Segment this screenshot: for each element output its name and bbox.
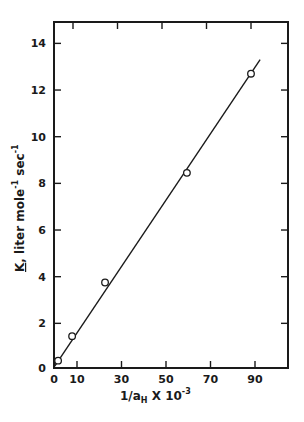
data-point-circle-icon [55, 357, 62, 364]
x-tick-label: 10 [69, 373, 85, 386]
data-point-circle-icon [248, 70, 255, 77]
y-tick-label: 2 [38, 317, 46, 330]
fit-line [55, 60, 260, 366]
chart: 01030507090 02468101214 1/aH X 10-3 K, l… [0, 0, 304, 422]
data-point-circle-icon [184, 170, 191, 177]
y-tick-label: 14 [31, 37, 47, 50]
x-tick-label: 0 [50, 373, 58, 386]
data-point-circle-icon [102, 279, 109, 286]
y-tick-label: 0 [38, 362, 46, 375]
y-tick-label: 6 [38, 224, 46, 237]
x-tick-label: 90 [247, 373, 263, 386]
x-tick-label: 70 [203, 373, 219, 386]
x-tick-label: 30 [114, 373, 130, 386]
data-point-circle-icon [69, 333, 76, 340]
x-axis-label: 1/aH X 10-3 [120, 387, 191, 405]
y-axis-label: K, liter mole-1 sec-1 [11, 144, 27, 272]
y-tick-label: 10 [31, 131, 47, 144]
y-tick-label: 8 [38, 177, 46, 190]
x-axis-ticks: 01030507090 [50, 22, 263, 386]
y-axis-ticks: 02468101214 [31, 37, 288, 375]
x-tick-label: 50 [158, 373, 174, 386]
y-tick-label: 4 [38, 271, 46, 284]
y-tick-label: 12 [31, 84, 46, 97]
